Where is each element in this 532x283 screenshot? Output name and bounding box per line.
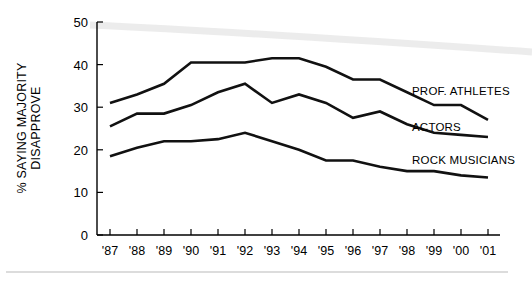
y-tick-label-0: 0 [81, 228, 88, 243]
y-tick-label-30: 30 [74, 100, 88, 115]
series-label-rock-musicians: ROCK MUSICIANS [412, 154, 515, 166]
y-axis-title-line2: DISAPPROVE [29, 86, 43, 169]
x-tick-label-y99: '99 [426, 244, 442, 258]
series-labels-group: PROF. ATHLETESACTORSROCK MUSICIANS [412, 85, 515, 166]
x-tick-label-y98: '98 [399, 244, 415, 258]
y-tick-label-50: 50 [74, 15, 88, 30]
y-tick-label-20: 20 [74, 143, 88, 158]
x-tick-label-y96: '96 [345, 244, 361, 258]
x-axis-ticks [110, 229, 488, 235]
x-tick-label-y89: '89 [156, 244, 172, 258]
y-tick-label-40: 40 [74, 58, 88, 73]
x-tick-label-y01: '01 [480, 244, 496, 258]
scan-artifact [90, 25, 532, 52]
x-axis-tick-labels: '87'88'89'90'91'92'93'94'95'96'97'98'99'… [102, 244, 496, 258]
x-tick-label-y92: '92 [237, 244, 253, 258]
x-tick-label-y97: '97 [372, 244, 388, 258]
series-label-prof-athletes: PROF. ATHLETES [412, 85, 510, 97]
x-tick-label-y95: '95 [318, 244, 334, 258]
chart-canvas: % SAYING MAJORITY DISAPPROVE 01020304050… [0, 0, 532, 283]
x-tick-label-y94: '94 [291, 244, 307, 258]
x-tick-label-y87: '87 [102, 244, 118, 258]
y-axis-title: % SAYING MAJORITY DISAPPROVE [15, 62, 43, 193]
y-axis-tick-labels: 01020304050 [74, 15, 88, 243]
line-chart: % SAYING MAJORITY DISAPPROVE 01020304050… [0, 0, 532, 283]
y-axis-title-line1: % SAYING MAJORITY [15, 62, 29, 193]
y-tick-label-10: 10 [74, 185, 88, 200]
x-tick-label-y91: '91 [210, 244, 226, 258]
y-axis-ticks [97, 22, 103, 235]
x-tick-label-y90: '90 [183, 244, 199, 258]
series-label-actors: ACTORS [412, 121, 461, 133]
x-tick-label-y00: '00 [453, 244, 469, 258]
x-tick-label-y93: '93 [264, 244, 280, 258]
x-tick-label-y88: '88 [129, 244, 145, 258]
